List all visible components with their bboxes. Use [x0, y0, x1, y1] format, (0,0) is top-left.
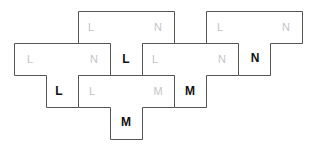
cell-label-bold: M — [185, 84, 195, 98]
cell-label-faint: L — [217, 21, 223, 33]
cell-label-faint: L — [89, 85, 95, 97]
cell-label-faint: N — [90, 53, 98, 65]
cell-label-bold: L — [122, 52, 129, 66]
cell-label-bold: M — [121, 115, 131, 129]
tetromino-piece-e: LMM — [79, 76, 175, 140]
cell-label-faint: L — [88, 21, 94, 33]
cell-label-faint: L — [27, 53, 33, 65]
cell-label-faint: N — [282, 21, 290, 33]
cell-label-faint: N — [154, 21, 162, 33]
cell-label-faint: M — [153, 85, 162, 97]
cell-label-bold: L — [55, 84, 62, 98]
cell-label-bold: N — [251, 51, 260, 65]
cell-label-faint: L — [152, 53, 158, 65]
tiling-diagram: LNLLNLLNNLNMLMM — [0, 0, 312, 149]
cell-label-faint: N — [218, 53, 226, 65]
